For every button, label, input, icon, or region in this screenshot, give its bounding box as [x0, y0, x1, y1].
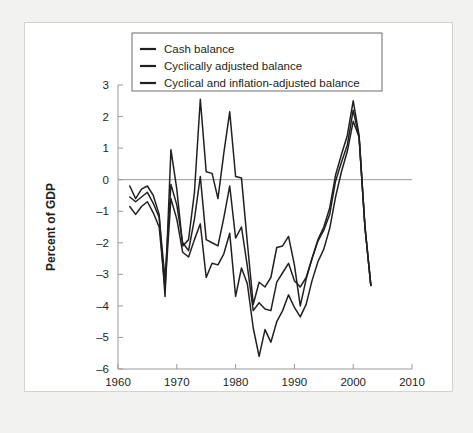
y-tick-label: 1	[103, 142, 109, 154]
legend-label-cyclical-inflation-adjusted-balance: Cyclical and inflation-adjusted balance	[164, 77, 360, 89]
y-tick-label: –1	[96, 205, 109, 217]
chart-series-group	[130, 99, 371, 356]
y-tick-label: –5	[96, 331, 109, 343]
x-tick-label: 2000	[340, 376, 366, 388]
x-tick-label: 1990	[282, 376, 308, 388]
y-tick-label: 0	[103, 174, 109, 186]
x-tick-label: 1980	[223, 376, 249, 388]
x-tick-label: 1970	[164, 376, 190, 388]
x-tick-label: 2010	[399, 376, 425, 388]
y-tick-label: –6	[96, 363, 109, 375]
legend-label-cash-balance: Cash balance	[164, 43, 234, 55]
figure-card: 3210–1–2–3–4–5–6 19601970198019902000201…	[24, 22, 453, 392]
series-line-cyclical-and-inflation-adjusted-balance	[130, 121, 371, 356]
y-axis-title: Percent of GDP	[44, 183, 58, 271]
y-tick-label: –3	[96, 268, 109, 280]
x-tick-label: 1960	[105, 376, 131, 388]
y-tick-label: 3	[103, 79, 109, 91]
legend-label-cyclically-adjusted-balance: Cyclically adjusted balance	[164, 60, 302, 72]
y-axis-ticks: 3210–1–2–3–4–5–6	[96, 79, 123, 375]
y-tick-label: –2	[96, 237, 109, 249]
y-tick-label: –4	[96, 300, 109, 312]
x-axis-ticks: 196019701980199020002010	[105, 364, 425, 388]
chart-legend: Cash balance Cyclically adjusted balance…	[132, 33, 382, 91]
figure-page: 3210–1–2–3–4–5–6 19601970198019902000201…	[0, 0, 473, 433]
line-chart: 3210–1–2–3–4–5–6 19601970198019902000201…	[25, 23, 452, 391]
y-tick-label: 2	[103, 111, 109, 123]
chart-axes	[118, 85, 412, 369]
